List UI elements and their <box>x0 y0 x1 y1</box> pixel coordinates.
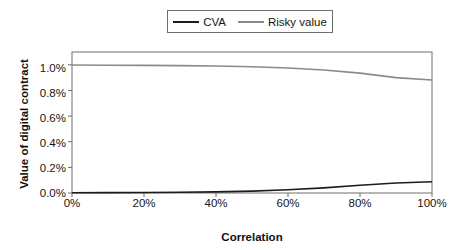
plot-frame <box>72 52 432 193</box>
chart-figure: CVA Risky value Value of digital contrac… <box>0 0 463 250</box>
plot-area <box>0 0 463 250</box>
x-axis-ticks <box>72 193 432 197</box>
series-line-risky-value <box>72 65 432 80</box>
series-line-cva <box>72 182 432 193</box>
y-axis-ticks <box>68 65 72 193</box>
